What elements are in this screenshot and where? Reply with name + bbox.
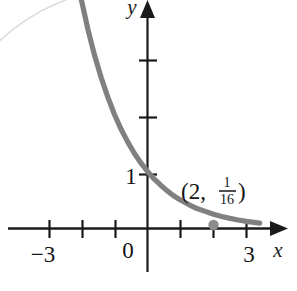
x-axis-arrowhead bbox=[270, 221, 288, 236]
graph-canvas: −3 0 3 1 y x (2, 1 16 ) bbox=[0, 0, 297, 291]
x-tick-label-3: 3 bbox=[243, 242, 255, 267]
annotation-close-paren: ) bbox=[238, 179, 246, 204]
y-axis-label: y bbox=[125, 0, 137, 19]
x-tick-label-0: 0 bbox=[122, 238, 134, 263]
exponential-decay-figure: −3 0 3 1 y x (2, 1 16 ) bbox=[0, 0, 297, 291]
x-axis-label: x bbox=[272, 238, 283, 262]
annotation-open-text: (2, bbox=[181, 179, 206, 204]
annotation-fraction-numerator: 1 bbox=[224, 175, 231, 190]
exponential-curve bbox=[77, 0, 260, 223]
x-tick-label--3: −3 bbox=[31, 242, 55, 267]
y-tick-label-1: 1 bbox=[125, 164, 137, 189]
point-annotation-label: (2, 1 16 ) bbox=[181, 175, 246, 207]
marked-point-dot bbox=[208, 220, 218, 230]
y-axis-arrowhead bbox=[140, 0, 155, 18]
annotation-fraction-denominator: 16 bbox=[220, 192, 234, 207]
